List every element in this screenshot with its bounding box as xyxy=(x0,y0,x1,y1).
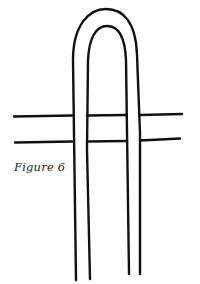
horizontal-cord-top-left xyxy=(14,116,72,117)
figure-caption: Figure 6 xyxy=(14,160,65,174)
horizontal-cord-bottom-middle xyxy=(87,141,127,142)
knot-diagram xyxy=(0,0,200,284)
horizontal-cord-top-right xyxy=(140,114,182,115)
horizontal-cord-bottom-right xyxy=(140,139,180,141)
horizontal-cord-bottom-left xyxy=(15,142,72,143)
loop-inner-line xyxy=(87,26,129,279)
loop-outer-line xyxy=(73,9,140,280)
horizontal-cord-top-middle xyxy=(87,115,126,116)
